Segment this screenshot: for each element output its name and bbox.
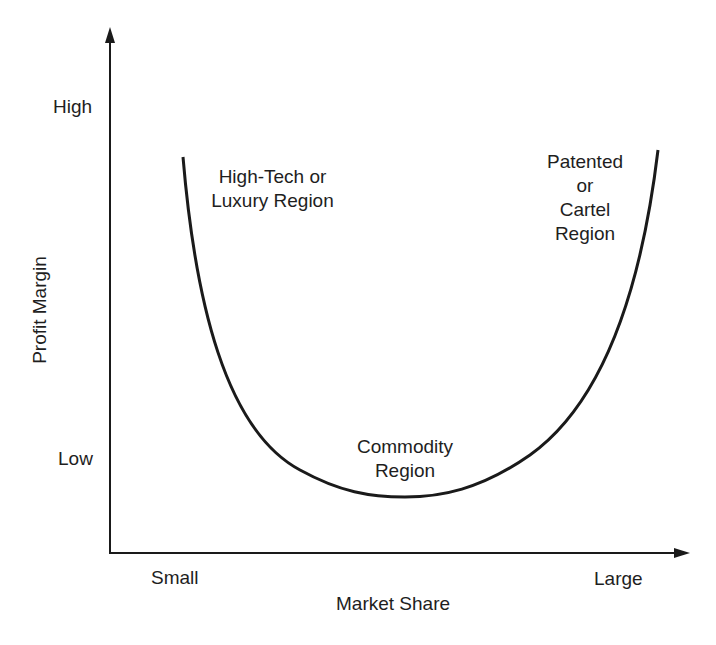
y-tick-low: Low [58,447,93,471]
region-label-hightech: High-Tech or Luxury Region [200,165,345,213]
x-axis-arrow-icon [674,548,690,558]
y-axis-title: Profit Margin [29,256,51,364]
region-label-hightech-line2: Luxury Region [200,189,345,213]
region-label-hightech-line1: High-Tech or [200,165,345,189]
y-axis-arrow-icon [105,27,115,43]
x-tick-small: Small [151,566,199,590]
x-tick-large: Large [594,567,643,591]
region-label-patented-line1: Patented [530,150,640,174]
region-label-patented-line4: Region [530,222,640,246]
chart-canvas [0,0,716,645]
region-label-commodity-line2: Region [345,459,465,483]
region-label-commodity: Commodity Region [345,435,465,483]
y-tick-high: High [53,95,92,119]
region-label-patented: Patented or Cartel Region [530,150,640,246]
x-axis-title: Market Share [336,592,450,616]
region-label-patented-line3: Cartel [530,198,640,222]
region-label-commodity-line1: Commodity [345,435,465,459]
region-label-patented-line2: or [530,174,640,198]
